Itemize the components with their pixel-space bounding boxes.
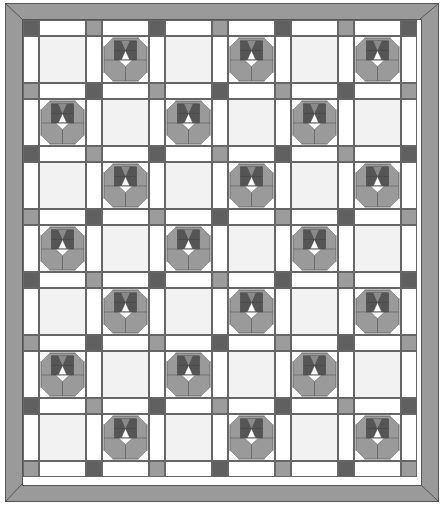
sashing-vertical — [149, 414, 165, 461]
flower-block — [39, 99, 86, 146]
cornerstone — [275, 272, 291, 288]
plain-block — [291, 36, 338, 83]
flower-block — [102, 36, 149, 83]
cornerstone — [86, 146, 102, 162]
sashing-horizontal — [165, 398, 212, 414]
sashing-vertical — [86, 36, 102, 83]
cornerstone — [149, 146, 165, 162]
plain-block — [39, 162, 86, 209]
flower-icon — [166, 352, 211, 397]
cornerstone — [338, 272, 354, 288]
cornerstone — [23, 146, 39, 162]
cornerstone — [275, 209, 291, 225]
sashing-horizontal — [291, 272, 338, 288]
sashing-vertical — [338, 288, 354, 335]
sashing-vertical — [401, 225, 417, 272]
quilt-center — [22, 19, 422, 486]
sashing-horizontal — [354, 398, 401, 414]
plain-block — [165, 288, 212, 335]
flower-icon — [355, 415, 400, 460]
sashing-horizontal — [291, 83, 338, 99]
sashing-horizontal — [228, 20, 275, 36]
flower-block — [354, 162, 401, 209]
cornerstone — [23, 335, 39, 351]
sashing-horizontal — [39, 209, 86, 225]
quilt — [5, 3, 439, 502]
sashing-vertical — [86, 288, 102, 335]
cornerstone — [149, 209, 165, 225]
plain-block — [102, 99, 149, 146]
plain-block — [354, 99, 401, 146]
flower-block — [228, 414, 275, 461]
sashing-horizontal — [354, 209, 401, 225]
cornerstone — [86, 398, 102, 414]
flower-block — [354, 36, 401, 83]
sashing-vertical — [149, 288, 165, 335]
cornerstone — [86, 272, 102, 288]
sashing-horizontal — [354, 461, 401, 477]
sashing-horizontal — [39, 146, 86, 162]
sashing-horizontal — [165, 461, 212, 477]
sashing-horizontal — [102, 20, 149, 36]
sashing-horizontal — [165, 272, 212, 288]
cornerstone — [401, 335, 417, 351]
sashing-vertical — [86, 99, 102, 146]
sashing-vertical — [401, 414, 417, 461]
plain-block — [102, 225, 149, 272]
sashing-horizontal — [102, 146, 149, 162]
cornerstone — [149, 461, 165, 477]
plain-block — [39, 414, 86, 461]
sashing-vertical — [338, 162, 354, 209]
sashing-vertical — [401, 36, 417, 83]
flower-block — [228, 162, 275, 209]
sashing-vertical — [275, 162, 291, 209]
sashing-horizontal — [354, 146, 401, 162]
cornerstone — [212, 209, 228, 225]
sashing-horizontal — [39, 335, 86, 351]
sashing-horizontal — [228, 272, 275, 288]
cornerstone — [149, 20, 165, 36]
sashing-horizontal — [102, 461, 149, 477]
cornerstone — [401, 398, 417, 414]
sashing-horizontal — [165, 83, 212, 99]
sashing-horizontal — [102, 335, 149, 351]
flower-block — [165, 99, 212, 146]
sashing-vertical — [338, 99, 354, 146]
sashing-vertical — [149, 162, 165, 209]
flower-icon — [103, 415, 148, 460]
flower-icon — [229, 37, 274, 82]
sashing-horizontal — [228, 146, 275, 162]
flower-icon — [40, 226, 85, 271]
cornerstone — [86, 209, 102, 225]
sashing-vertical — [275, 288, 291, 335]
sashing-vertical — [212, 288, 228, 335]
flower-block — [291, 225, 338, 272]
cornerstone — [401, 461, 417, 477]
sashing-horizontal — [354, 83, 401, 99]
sashing-horizontal — [228, 209, 275, 225]
plain-block — [291, 414, 338, 461]
sashing-horizontal — [165, 146, 212, 162]
sashing-vertical — [86, 162, 102, 209]
plain-block — [165, 162, 212, 209]
plain-block — [102, 351, 149, 398]
sashing-vertical — [401, 162, 417, 209]
plain-block — [165, 36, 212, 83]
sashing-vertical — [212, 225, 228, 272]
cornerstone — [212, 83, 228, 99]
cornerstone — [338, 20, 354, 36]
sashing-vertical — [149, 36, 165, 83]
sashing-vertical — [401, 99, 417, 146]
plain-block — [354, 351, 401, 398]
sashing-vertical — [212, 351, 228, 398]
cornerstone — [23, 461, 39, 477]
cornerstone — [212, 461, 228, 477]
flower-icon — [229, 289, 274, 334]
flower-icon — [292, 352, 337, 397]
flower-icon — [229, 415, 274, 460]
cornerstone — [212, 20, 228, 36]
flower-icon — [166, 226, 211, 271]
flower-icon — [166, 100, 211, 145]
cornerstone — [23, 272, 39, 288]
sashing-horizontal — [102, 83, 149, 99]
